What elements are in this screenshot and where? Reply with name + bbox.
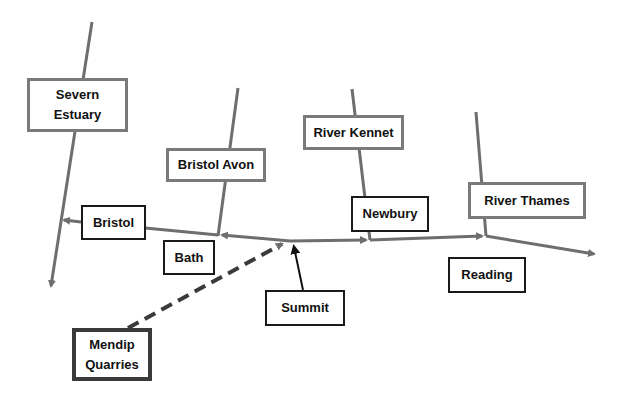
river-box-severn-estuary: Severn Estuary bbox=[27, 78, 128, 132]
place-box-bath: Bath bbox=[163, 240, 215, 275]
place-label: Mendip Quarries bbox=[85, 335, 138, 375]
river-label: Bristol Avon bbox=[178, 155, 254, 175]
place-box-newbury: Newbury bbox=[351, 196, 429, 232]
bristol-to-severn-arrow bbox=[64, 220, 81, 222]
river-box-river-kennet: River Kennet bbox=[303, 115, 404, 150]
river-label: River Thames bbox=[484, 191, 569, 211]
canal-newbury-to-thames-arrow bbox=[370, 236, 482, 240]
place-label: Summit bbox=[281, 298, 329, 318]
place-box-summit: Summit bbox=[265, 290, 345, 326]
place-label: Reading bbox=[461, 265, 512, 285]
river-label: Severn Estuary bbox=[54, 85, 102, 125]
place-box-mendip-quarries: Mendip Quarries bbox=[72, 328, 152, 381]
place-label: Bath bbox=[175, 248, 204, 268]
canal-summit-to-newbury-arrow bbox=[290, 240, 366, 241]
canal-bristol-bath bbox=[145, 228, 218, 235]
canal-summit-to-bath-arrow bbox=[222, 235, 290, 241]
place-box-bristol: Bristol bbox=[81, 205, 146, 240]
place-label: Newbury bbox=[363, 204, 418, 224]
place-box-reading: Reading bbox=[448, 257, 526, 293]
place-label: Bristol bbox=[93, 213, 134, 233]
river-label: River Kennet bbox=[313, 123, 393, 143]
severn-estuary-line bbox=[51, 22, 92, 286]
river-box-bristol-avon: Bristol Avon bbox=[166, 148, 266, 182]
river-box-river-thames: River Thames bbox=[468, 182, 586, 219]
summit-pointer-arrow bbox=[294, 247, 303, 290]
thames-downstream-arrow bbox=[486, 236, 594, 254]
